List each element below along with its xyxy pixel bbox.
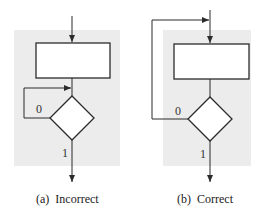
process-box-b xyxy=(174,44,249,79)
panel-a-incorrect: 0 1 (a) Incorrect xyxy=(14,16,120,206)
panel-b-correct: 0 1 (b) Correct xyxy=(152,10,251,206)
process-box-a xyxy=(36,43,110,78)
flowchart-comparison: 0 1 (a) Incorrect 0 1 (b) Correct xyxy=(0,0,268,218)
caption-a: (a) Incorrect xyxy=(36,192,99,206)
branch-false-label-b: 0 xyxy=(175,104,181,118)
caption-b: (b) Correct xyxy=(177,192,234,206)
branch-true-label-b: 1 xyxy=(200,147,206,161)
branch-true-label-a: 1 xyxy=(62,146,68,160)
branch-false-label-a: 0 xyxy=(36,102,42,116)
